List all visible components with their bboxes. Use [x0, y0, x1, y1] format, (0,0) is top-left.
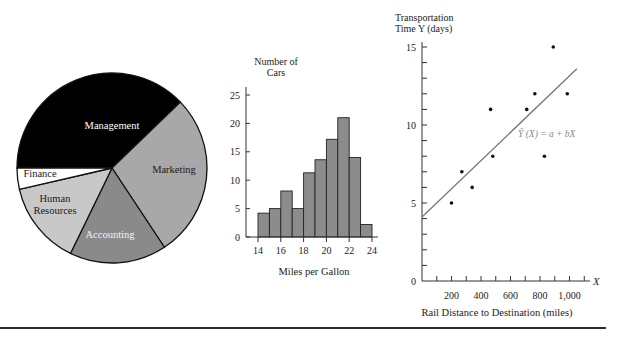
regression-line [422, 69, 577, 217]
histogram-bar-20-21 [326, 139, 337, 237]
pie-chart-departments: ManagementMarketingAccountingHumanResour… [17, 73, 207, 263]
scatter-ytick-label: 10 [406, 120, 416, 131]
histogram-ytick-label: 5 [235, 203, 240, 214]
scatter-point [489, 108, 493, 112]
scatter-point [533, 92, 537, 96]
scatter-xtick-label: 1,000 [558, 290, 581, 301]
scatter-ytick-label: 5 [411, 198, 416, 209]
pie-label-management: Management [85, 120, 140, 131]
histogram-bar-19-20 [315, 160, 326, 237]
histogram-ytick-label: 20 [230, 118, 240, 129]
horizontal-divider [0, 327, 606, 329]
histogram-bar-18-19 [304, 173, 315, 237]
pie-label-accounting: Accounting [86, 229, 136, 240]
scatter-point [460, 170, 464, 174]
scatter-point [525, 108, 529, 112]
scatter-x-axis-symbol: X [592, 276, 600, 287]
scatter-point [450, 201, 454, 205]
histogram-xtick-label: 14 [253, 245, 263, 256]
scatter-xtick-label: 400 [474, 290, 489, 301]
scatter-point [565, 92, 569, 96]
scatter-transport-time-vs-distance: X0510152004006008001,000Ŷ (X) = a + bXTr… [395, 12, 600, 319]
figure-canvas: ManagementMarketingAccountingHumanResour… [0, 0, 618, 346]
pie-label-human-resources: HumanResources [33, 193, 76, 216]
histogram-bar-22-23 [349, 157, 360, 237]
scatter-x-axis-title: Rail Distance to Destination (miles) [421, 307, 573, 319]
histogram-bar-21-22 [338, 118, 349, 237]
histogram-bar-14-15 [258, 213, 269, 237]
scatter-point [551, 45, 555, 49]
histogram-y-axis-title: Number ofCars [254, 56, 298, 78]
histogram-ytick-label: 15 [230, 146, 240, 157]
pie-label-finance: Finance [23, 168, 57, 179]
histogram-bar-16-17 [281, 191, 292, 237]
scatter-xtick-label: 600 [503, 290, 518, 301]
scatter-ytick-label: 15 [406, 42, 416, 53]
histogram-xtick-label: 16 [276, 245, 286, 256]
histogram-xtick-label: 24 [367, 245, 377, 256]
histogram-ytick-label: 25 [230, 90, 240, 101]
histogram-ytick-label: 0 [235, 232, 240, 243]
histogram-xtick-label: 18 [299, 245, 309, 256]
histogram-bar-23-24 [361, 225, 372, 237]
histogram-miles-per-gallon: 0510152025141618202224Number ofCarsMiles… [230, 56, 378, 277]
scatter-xtick-label: 800 [533, 290, 548, 301]
pie-label-marketing: Marketing [152, 164, 196, 175]
scatter-y-axis-title: TransportationTime Y (days) [395, 12, 454, 35]
scatter-point [470, 186, 474, 190]
histogram-xtick-label: 22 [344, 245, 354, 256]
scatter-ytick-label: 0 [411, 276, 416, 287]
regression-equation-label: Ŷ (X) = a + bX [518, 128, 577, 140]
scatter-point [491, 154, 495, 158]
histogram-xtick-label: 20 [321, 245, 331, 256]
scatter-xtick-label: 200 [444, 290, 459, 301]
histogram-x-axis-title: Miles per Gallon [278, 266, 350, 277]
scatter-point [543, 154, 547, 158]
histogram-bar-17-18 [292, 209, 303, 237]
histogram-ytick-label: 10 [230, 175, 240, 186]
histogram-bar-15-16 [269, 209, 280, 237]
